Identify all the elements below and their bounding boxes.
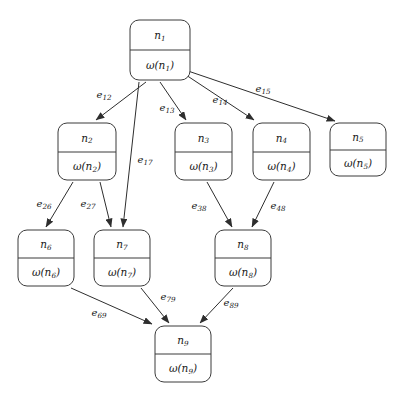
edge-label-e17: e17 [137,154,152,167]
edge-e38 [207,182,232,227]
edge-label-e89: e89 [223,297,238,310]
edge-label-e69: e69 [91,307,106,320]
node-n8[interactable]: n8ω(n8) [215,230,271,286]
node-weight-n9: ω(n9) [169,362,197,375]
diagram-canvas: n1ω(n1)n2ω(n2)n3ω(n3)n4ω(n4)n5ω(n5)n6ω(n… [0,0,399,402]
node-weight-n1: ω(n1) [146,59,174,72]
node-weight-n5: ω(n5) [344,157,372,170]
node-n5[interactable]: n5ω(n5) [330,123,386,176]
node-n2[interactable]: n2ω(n2) [58,123,116,180]
edge-label-e38: e38 [191,200,206,213]
node-n6[interactable]: n6ω(n6) [18,230,74,286]
node-weight-n4: ω(n4) [267,160,295,173]
edge-label-e12: e12 [96,89,111,102]
edge-e69 [71,288,152,324]
node-n1[interactable]: n1ω(n1) [130,20,190,80]
nodes-layer: n1ω(n1)n2ω(n2)n3ω(n3)n4ω(n4)n5ω(n5)n6ω(n… [18,20,386,382]
edge-label-e26: e26 [36,198,51,211]
edges-layer [46,71,335,324]
edge-label-e15: e15 [255,83,270,96]
edge-label-e14: e14 [212,94,227,107]
node-weight-n7: ω(n7) [108,266,136,279]
graph-svg: n1ω(n1)n2ω(n2)n3ω(n3)n4ω(n4)n5ω(n5)n6ω(n… [0,0,399,402]
edge-label-e48: e48 [270,200,285,213]
node-weight-n6: ω(n6) [32,266,60,279]
node-n3[interactable]: n3ω(n3) [175,123,232,180]
node-weight-n8: ω(n8) [229,266,257,279]
edge-e15 [188,71,335,121]
node-n4[interactable]: n4ω(n4) [253,123,310,180]
node-n7[interactable]: n7ω(n7) [94,230,150,286]
edge-label-e79: e79 [160,291,175,304]
edge-e27 [100,182,111,227]
edge-label-e27: e27 [80,198,95,211]
node-weight-n2: ω(n2) [73,160,101,173]
edge-label-e13: e13 [159,102,174,115]
node-weight-n3: ω(n3) [189,160,217,173]
node-n9[interactable]: n9ω(n9) [155,326,211,382]
